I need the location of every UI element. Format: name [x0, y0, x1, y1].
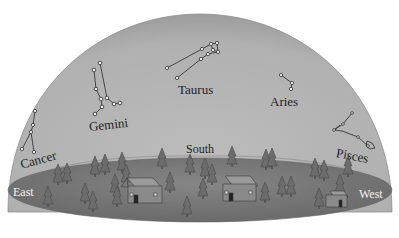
label-south: South [186, 142, 214, 157]
label-taurus: Taurus [178, 82, 213, 98]
label-aries: Aries [270, 94, 298, 110]
label-west: West [359, 187, 383, 202]
label-east: East [13, 185, 34, 200]
sky-dome-diagram: Taurus Gemini Aries Cancer Pisces South … [0, 0, 399, 238]
house-large-middle [223, 176, 258, 201]
dome-illustration [0, 0, 399, 238]
